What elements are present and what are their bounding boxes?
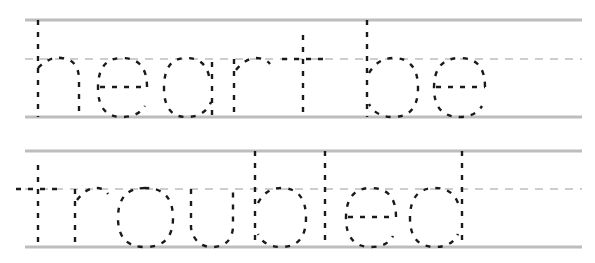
traced-letter-e [346,188,396,247]
letter-stroke [164,58,211,117]
letter-stroke [236,58,270,70]
traced-letter-b [367,20,418,117]
traced-letter-e [98,58,147,117]
traced-letter-d [410,151,462,247]
letter-stroke [191,189,233,247]
letter-stroke [118,188,173,247]
traced-letter-r [75,188,108,247]
letter-stroke [258,188,306,247]
writing-row-1 [25,20,582,117]
letter-stroke [410,188,458,247]
writing-row-2 [16,151,582,247]
traced-letter-r [234,58,270,117]
handwriting-worksheet: heart be troubled [0,0,595,263]
tracing-canvas [0,0,595,263]
traced-letter-t [282,35,326,117]
traced-letter-o [118,188,173,247]
letter-stroke [369,58,418,117]
traced-letter-a [164,58,212,117]
traced-letter-e [434,58,485,117]
letter-stroke [77,188,108,200]
traced-letter-b [255,151,306,247]
letter-stroke [38,58,79,117]
traced-letter-t [16,165,60,247]
traced-letter-u [191,189,233,247]
traced-letter-h [38,20,79,117]
letter-stroke [434,58,485,117]
